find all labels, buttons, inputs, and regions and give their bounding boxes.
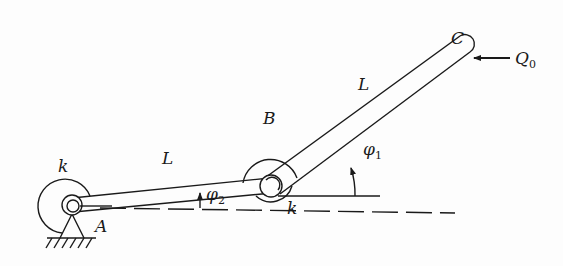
spring-A-label: k [58, 158, 68, 175]
load-subscript: 0 [529, 58, 536, 71]
pin-B-icon [260, 175, 282, 197]
spring-B-label: k [287, 200, 297, 217]
phi2-symbol: φ [206, 184, 218, 204]
reference-line-A [100, 208, 455, 213]
node-B-label: B [263, 110, 276, 127]
phi1-symbol: φ [363, 139, 375, 159]
length-BC-label: L [358, 76, 369, 93]
phi2-label: φ2 [206, 186, 225, 206]
phi1-arrow-icon [351, 168, 355, 196]
node-C-label: C [451, 30, 464, 47]
rod-AB [72, 178, 272, 212]
node-A-label: A [95, 218, 107, 235]
phi2-subscript: 2 [218, 194, 225, 207]
phi1-subscript: 1 [375, 149, 382, 162]
length-AB-label: L [162, 150, 173, 167]
load-symbol: Q [515, 48, 529, 68]
rod-BC [262, 35, 474, 194]
diagram-graphics [0, 0, 563, 266]
linkage-diagram: k L A B k L C φ1 φ2 Q0 [0, 0, 563, 266]
load-label: Q0 [515, 50, 536, 70]
phi1-label: φ1 [363, 141, 382, 161]
